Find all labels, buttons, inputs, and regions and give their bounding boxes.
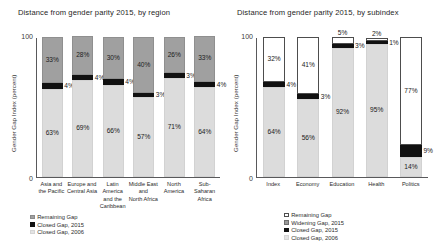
segment-value-remaining: 2% [372, 31, 382, 38]
x-axis-label: Index [256, 181, 290, 188]
segment-value-remaining: 32% [267, 56, 280, 63]
segment-value-remaining: 30% [107, 55, 120, 62]
segment-value-closed-2006: 71% [168, 124, 181, 131]
segment-value-remaining: 41% [302, 62, 315, 69]
bar-slot: 33% 4% 63% [37, 38, 68, 177]
x-axis-label-line: Economy [290, 181, 324, 188]
stacked-bar[interactable]: 30% 4% 66% [103, 37, 124, 177]
x-axis-label: Latin America and the Caribbean [97, 181, 128, 211]
y-axis-label-left: Gender Gap Index (percent) [10, 75, 17, 152]
bar-slot: 26% 3% 71% [159, 38, 190, 177]
x-axis-label-line: Education [325, 181, 359, 188]
bar-slot: 30% 4% 66% [98, 38, 129, 177]
stacked-bar[interactable]: 41% 3% 56% [297, 37, 319, 177]
x-axis-label-line: Latin America [97, 181, 128, 196]
plot-area-left: 100 0 33% 4% 63% [36, 38, 220, 178]
legend-swatch-icon [284, 220, 289, 225]
bar-slot: 2% 1% 95% [360, 38, 394, 177]
legend-item-label: Remaining Gap [291, 212, 331, 218]
segment-value-remaining: 33% [198, 55, 211, 62]
x-axis-label: Economy [290, 181, 324, 188]
x-axis-label: Asia and the Pacific [36, 181, 67, 211]
y-axis-label-right: Gender Gap Index (percent) [232, 75, 239, 152]
bar-group-right: 32% 4% 64% 41% [257, 38, 428, 177]
x-axis-label-line: the Pacific [36, 188, 67, 195]
stacked-bar[interactable]: 32% 4% 64% [263, 37, 285, 177]
chart-title-by-subindex: Distance from gender parity 2015, by sub… [237, 8, 399, 17]
x-axis-label-line: Central Asia [67, 188, 98, 195]
legend-right: Remaining Gap Widening Gap, 2015 Closed … [284, 212, 344, 242]
x-axis-label-line: and [128, 188, 159, 195]
stacked-bar[interactable]: 40% 3% 57% [133, 37, 154, 177]
legend-swatch-icon [30, 222, 35, 227]
segment-value-closed-2006: 69% [76, 125, 89, 132]
segment-value-closed-2006: 66% [107, 128, 120, 135]
y-axis-tick-max-right: 100 [227, 33, 253, 40]
bar-slot: 28% 4% 69% [68, 38, 99, 177]
legend-swatch-icon [30, 230, 35, 235]
legend-item[interactable]: Remaining Gap [30, 214, 84, 220]
y-axis-tick-min-left: 0 [7, 175, 33, 182]
stacked-bar[interactable]: 33% 4% 63% [42, 37, 63, 177]
segment-value-closed-2006: 57% [137, 134, 150, 141]
segment-value-remaining: 77% [404, 88, 417, 95]
bar-slot: 33% 4% 64% [190, 38, 221, 177]
stacked-bar[interactable]: 5% 3% 92% [332, 37, 354, 177]
stacked-bar[interactable]: 2% 1% 95% [366, 38, 388, 177]
bar-slot: 77% 9% 14% [394, 38, 428, 177]
legend-item-label: Closed Gap, 2006 [37, 229, 84, 235]
x-axis-label: Politics [394, 181, 428, 188]
x-axis-label: North America [159, 181, 190, 211]
bar-group-left: 33% 4% 63% 28% [37, 38, 220, 177]
stacked-bar[interactable]: 26% 3% 71% [164, 37, 185, 177]
segment-value-remaining: 5% [338, 30, 348, 37]
x-axis-label: Health [359, 181, 393, 188]
legend-swatch-icon [284, 228, 289, 233]
legend-left: Remaining Gap Closed Gap, 2015 Closed Ga… [30, 214, 84, 237]
legend-item[interactable]: Closed Gap, 2006 [30, 229, 84, 235]
x-axis-label: Europe and Central Asia [67, 181, 98, 211]
legend-item[interactable]: Closed Gap, 2015 [284, 227, 344, 233]
y-axis-tick-max-left: 100 [7, 33, 33, 40]
chart-title-by-region: Distance from gender parity 2015, by reg… [18, 8, 170, 17]
legend-item-label: Closed Gap, 2015 [291, 227, 338, 233]
x-axis-label-line: Health [359, 181, 393, 188]
segment-value-remaining: 40% [137, 62, 150, 69]
segment-value-closed-2006: 64% [198, 129, 211, 136]
x-axis-label-line: Middle East [128, 181, 159, 188]
legend-swatch-icon [284, 213, 289, 218]
legend-item-label: Widening Gap, 2015 [291, 220, 344, 226]
x-axis-label-line: Africa [189, 196, 220, 203]
chart-by-region: Distance from gender parity 2015, by reg… [0, 0, 224, 252]
x-axis-label-line: Europe and [67, 181, 98, 188]
bar-slot: 5% 3% 92% [325, 38, 359, 177]
bar-slot: 41% 3% 56% [291, 38, 325, 177]
x-axis-label-line: Index [256, 181, 290, 188]
segment-value-remaining: 28% [76, 52, 89, 59]
y-axis-tick-min-right: 0 [227, 175, 253, 182]
x-axis-labels-right: Index Economy Education Health Politics [256, 181, 428, 188]
plot-area-right: 100 0 32% 4% 64% [256, 38, 428, 178]
legend-item[interactable]: Widening Gap, 2015 [284, 220, 344, 226]
stacked-bar[interactable]: 28% 4% 69% [72, 36, 93, 177]
legend-item[interactable]: Remaining Gap [284, 212, 344, 218]
legend-swatch-icon [284, 235, 289, 240]
bar-slot: 32% 4% 64% [257, 38, 291, 177]
x-axis-label-line: Caribbean [97, 203, 128, 210]
x-axis-label-line: Politics [394, 181, 428, 188]
x-axis-label-line: and the [97, 196, 128, 203]
stacked-bar[interactable]: 33% 4% 64% [194, 36, 215, 177]
stacked-bar[interactable]: 77% 9% 14% [400, 37, 422, 177]
segment-value-remaining: 26% [168, 52, 181, 59]
x-axis-label-line: North Africa [128, 196, 159, 203]
x-axis-label-line: Sub-Saharan [189, 181, 220, 196]
segment-value-closed-2006: 95% [370, 107, 383, 114]
legend-item[interactable]: Closed Gap, 2006 [284, 235, 344, 241]
segment-value-closed-2006: 14% [404, 164, 417, 171]
legend-item[interactable]: Closed Gap, 2015 [30, 222, 84, 228]
bar-slot: 40% 3% 57% [129, 38, 160, 177]
figure-container: Distance from gender parity 2015, by reg… [0, 0, 436, 252]
segment-value-closed-2006: 92% [336, 109, 349, 116]
x-axis-label: Middle East and North Africa [128, 181, 159, 211]
segment-value-closed-2006: 63% [46, 130, 59, 137]
